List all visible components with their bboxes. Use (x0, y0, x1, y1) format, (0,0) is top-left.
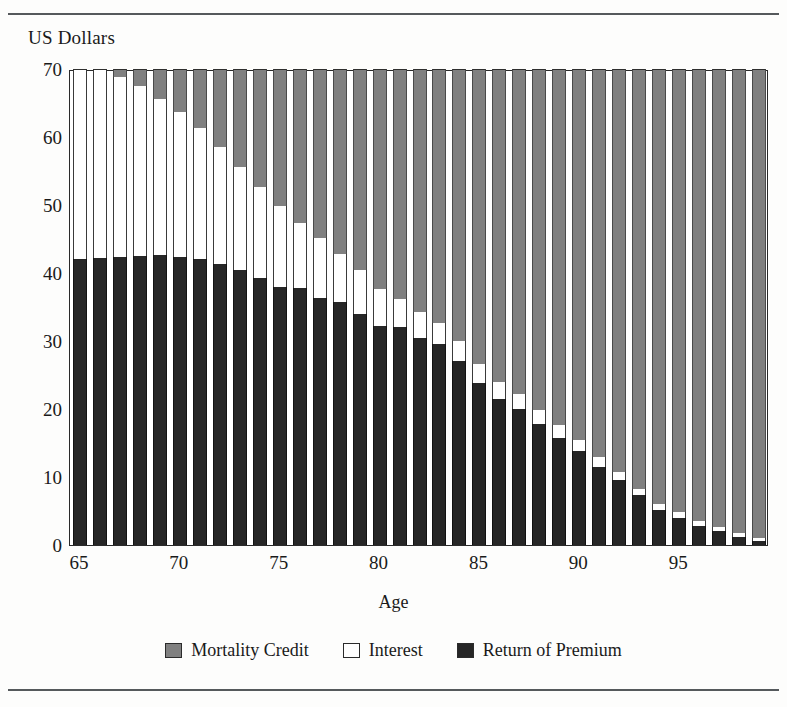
bar-segment-int (572, 440, 586, 451)
bar-age-93 (632, 69, 646, 545)
y-tick-60: 60 (16, 127, 62, 149)
legend-item-return_of_premium: Return of Premium (457, 640, 622, 661)
bar-age-94 (652, 69, 666, 545)
bar-segment-rop (652, 510, 666, 545)
bar-segment-int (293, 223, 307, 288)
bar-age-78 (333, 69, 347, 545)
bar-segment-mc (133, 69, 147, 86)
bar-segment-rop (253, 278, 267, 545)
y-tick-20: 20 (16, 399, 62, 421)
bar-age-68 (133, 69, 147, 545)
bar-segment-mc (313, 69, 327, 238)
bar-segment-int (472, 364, 486, 383)
bar-segment-rop (73, 259, 87, 545)
bar-segment-mc (273, 69, 287, 206)
bar-segment-mc (552, 69, 566, 425)
legend-swatch-interest (343, 643, 360, 658)
bar-segment-int (313, 238, 327, 298)
bar-age-72 (213, 69, 227, 545)
bar-age-66 (93, 69, 107, 545)
bar-segment-mc (472, 69, 486, 364)
bar-age-88 (532, 69, 546, 545)
bar-age-80 (373, 69, 387, 545)
bar-segment-mc (512, 69, 526, 394)
bar-age-85 (472, 69, 486, 545)
bar-segment-mc (672, 69, 686, 512)
bar-segment-int (373, 289, 387, 326)
legend-label-interest: Interest (369, 640, 423, 661)
x-tick-80: 80 (369, 552, 388, 574)
bar-age-92 (612, 69, 626, 545)
bar-segment-mc (193, 69, 207, 128)
bar-segment-int (173, 112, 187, 257)
bar-segment-int (612, 472, 626, 480)
bar-segment-rop (153, 255, 167, 545)
bar-segment-rop (413, 338, 427, 545)
bar-segment-mc (732, 69, 746, 533)
bar-age-95 (672, 69, 686, 545)
bar-segment-rop (732, 537, 746, 545)
top-divider-rule (8, 13, 779, 15)
bar-age-87 (512, 69, 526, 545)
bar-segment-mc (393, 69, 407, 299)
bar-segment-int (133, 86, 147, 256)
bar-segment-rop (532, 424, 546, 545)
x-tick-70: 70 (169, 552, 188, 574)
bar-segment-mc (452, 69, 466, 341)
bar-segment-int (213, 147, 227, 264)
bar-segment-rop (193, 259, 207, 545)
y-tick-40: 40 (16, 263, 62, 285)
bar-segment-int (592, 457, 606, 467)
bar-segment-mc (652, 69, 666, 504)
x-tick-95: 95 (669, 552, 688, 574)
bar-segment-rop (632, 495, 646, 545)
bar-segment-mc (572, 69, 586, 440)
bar-segment-int (93, 69, 107, 258)
bar-age-77 (313, 69, 327, 545)
y-tick-50: 50 (16, 195, 62, 217)
bar-age-91 (592, 69, 606, 545)
x-tick-90: 90 (569, 552, 588, 574)
bar-group (70, 71, 767, 545)
bar-segment-mc (333, 69, 347, 254)
bar-segment-mc (492, 69, 506, 382)
plot-area (69, 70, 768, 546)
bar-segment-mc (413, 69, 427, 312)
bar-segment-int (333, 254, 347, 302)
y-tick-10: 10 (16, 467, 62, 489)
bar-segment-mc (153, 69, 167, 99)
bar-segment-mc (173, 69, 187, 112)
bar-age-65 (73, 69, 87, 545)
bar-segment-mc (113, 69, 127, 77)
bar-segment-int (353, 270, 367, 314)
bar-segment-int (552, 425, 566, 437)
bar-age-81 (393, 69, 407, 545)
bar-segment-rop (452, 361, 466, 545)
legend-swatch-mortality_credit (165, 643, 182, 658)
bar-age-96 (692, 69, 706, 545)
bar-age-83 (432, 69, 446, 545)
bar-segment-rop (273, 287, 287, 545)
bar-segment-mc (293, 69, 307, 223)
bar-age-71 (193, 69, 207, 545)
legend-item-interest: Interest (343, 640, 423, 661)
bar-age-97 (712, 69, 726, 545)
bar-segment-rop (213, 264, 227, 545)
y-axis-title: US Dollars (28, 27, 115, 49)
bar-segment-rop (113, 257, 127, 545)
bar-age-99 (752, 69, 766, 545)
x-axis-title: Age (0, 592, 787, 613)
bar-segment-rop (133, 256, 147, 545)
bar-age-89 (552, 69, 566, 545)
bar-segment-mc (712, 69, 726, 527)
y-tick-0: 0 (16, 535, 62, 557)
legend-swatch-return_of_premium (457, 643, 474, 658)
bar-segment-rop (752, 541, 766, 545)
bar-age-86 (492, 69, 506, 545)
bar-segment-rop (672, 518, 686, 545)
y-tick-70: 70 (16, 59, 62, 81)
bar-segment-rop (692, 526, 706, 545)
x-tick-65: 65 (69, 552, 88, 574)
bar-segment-rop (432, 344, 446, 545)
bar-segment-mc (233, 69, 247, 167)
